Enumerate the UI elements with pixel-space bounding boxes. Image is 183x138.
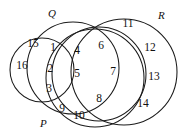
- element-9: 9: [59, 103, 65, 115]
- element-12: 12: [144, 42, 156, 54]
- element-5: 5: [74, 68, 80, 80]
- element-11: 11: [122, 18, 133, 30]
- q-circle: [27, 22, 119, 114]
- element-2: 2: [47, 63, 53, 75]
- element-7: 7: [110, 66, 116, 78]
- element-4: 4: [74, 45, 80, 57]
- element-1: 1: [50, 42, 56, 54]
- element-8: 8: [96, 93, 102, 105]
- element-15: 15: [27, 38, 39, 50]
- set-label-p: P: [40, 118, 47, 129]
- element-13: 13: [148, 71, 160, 83]
- element-14: 14: [137, 98, 149, 110]
- set-label-r: R: [158, 10, 165, 21]
- element-10: 10: [73, 110, 85, 122]
- element-3: 3: [46, 83, 52, 95]
- element-16: 16: [16, 60, 28, 72]
- element-6: 6: [98, 40, 104, 52]
- venn-diagram: QRP 15161234567891011121314: [0, 0, 183, 138]
- set-label-q: Q: [48, 8, 56, 19]
- r-circle: [71, 19, 177, 125]
